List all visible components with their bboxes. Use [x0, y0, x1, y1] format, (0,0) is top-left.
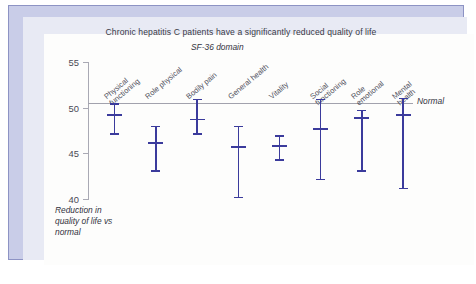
error-bar-lower-cap — [193, 133, 202, 135]
mean-marker — [190, 119, 205, 121]
mean-marker — [107, 114, 122, 116]
error-bar-upper-cap — [193, 99, 202, 101]
error-bar-upper-cap — [357, 110, 366, 112]
chart-area: Chronic hepatitis C patients have a sign… — [21, 17, 451, 248]
error-bar-upper-cap — [316, 99, 325, 101]
error-bar-range-line — [196, 99, 197, 135]
error-bar-upper-cap — [275, 135, 284, 137]
error-bar-lower-cap — [110, 133, 119, 135]
error-bar-lower-cap — [234, 197, 243, 199]
error-bar-upper-cap — [151, 126, 160, 128]
mean-marker — [313, 128, 328, 130]
error-bar-lower-cap — [357, 170, 366, 172]
error-bar-lower-cap — [151, 170, 160, 172]
error-bar-range-line — [361, 110, 362, 172]
error-bar-range-line — [279, 135, 280, 161]
error-bar-range-line — [320, 99, 321, 180]
data-series-layer — [21, 17, 451, 248]
error-bar-range-line — [114, 103, 115, 134]
error-bar-upper-cap — [399, 98, 408, 100]
mean-marker — [354, 117, 369, 119]
scanned-page: Chronic hepatitis C patients have a sign… — [0, 0, 476, 284]
error-bar-lower-cap — [316, 179, 325, 181]
mean-marker — [396, 114, 411, 116]
mean-marker — [231, 146, 246, 148]
mean-marker — [148, 142, 163, 144]
mean-marker — [272, 145, 287, 147]
error-bar-range-line — [402, 98, 403, 189]
error-bar-lower-cap — [399, 188, 408, 190]
error-bar-range-line — [155, 126, 156, 172]
error-bar-upper-cap — [234, 126, 243, 128]
error-bar-lower-cap — [275, 159, 284, 161]
error-bar-upper-cap — [110, 103, 119, 105]
error-bar-range-line — [238, 126, 239, 198]
